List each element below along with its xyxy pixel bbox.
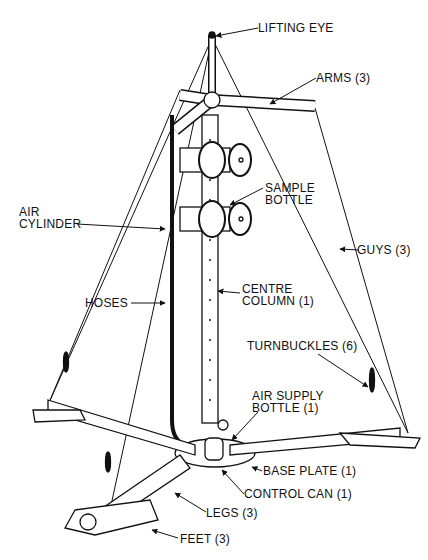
label-base-plate: BASE PLATE (1) <box>263 465 356 478</box>
label-air-cylinder-2: CYLINDER <box>19 218 81 231</box>
label-hoses: HOSES <box>85 297 128 310</box>
label-sample-bottle-2: BOTTLE <box>265 194 313 207</box>
label-lifting-eye: LIFTING EYE <box>258 22 334 35</box>
label-feet: FEET (3) <box>180 533 230 546</box>
label-centre-column-2: COLUMN (1) <box>242 295 314 308</box>
label-arms: ARMS (3) <box>316 72 370 85</box>
label-turnbuckles: TURNBUCKLES (6) <box>247 340 357 353</box>
label-legs: LEGS (3) <box>206 507 258 520</box>
arms <box>175 32 315 130</box>
label-control-can: CONTROL CAN (1) <box>244 488 352 501</box>
label-guys: GUYS (3) <box>357 244 411 257</box>
label-air-supply-2: BOTTLE (1) <box>252 402 319 415</box>
